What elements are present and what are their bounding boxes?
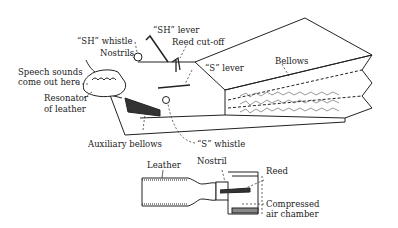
auxiliary-bellows [125,98,160,116]
label-sh-whistle: “SH” whistle [77,37,133,46]
label-nostril: Nostril [197,157,227,166]
label-sh-lever: “SH” lever [153,26,199,35]
label-leather: Leather [147,161,181,170]
label-resonator-2: of leather [44,105,86,114]
label-s-lever: “S” lever [205,64,244,73]
label-compressed: Compressed [266,200,319,209]
bellows [195,18,372,90]
reed-cutoff [172,58,180,72]
label-resonator-1: Resonator [44,94,88,103]
label-speech-sounds-2: come out here [18,78,80,87]
label-air-chamber: air chamber [266,210,318,219]
s-whistle [163,97,170,104]
label-reed-cutoff: Reed cut-off [172,38,224,47]
label-speech-sounds-1: Speech sounds [18,68,83,77]
label-s-whistle: “S” whistle [197,140,245,149]
sh-lever [146,36,168,62]
detail-section [142,170,264,214]
label-bellows: Bellows [275,57,308,66]
label-auxiliary-bellows: Auxiliary bellows [88,140,162,149]
s-lever [158,85,190,88]
hand [83,70,125,97]
sh-whistle [134,53,142,61]
label-nostrils: Nostrils [100,49,134,58]
leather-tube [142,178,216,206]
label-reed: Reed [266,167,288,176]
